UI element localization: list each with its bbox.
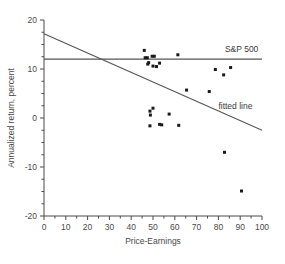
data-point: [152, 107, 155, 110]
data-point: [240, 190, 243, 193]
data-point: [208, 90, 211, 93]
data-point: [148, 110, 151, 113]
scatter-chart: 0102030405060708090100-20-1001020 S&P 50…: [0, 0, 285, 264]
data-point: [214, 68, 217, 71]
data-point: [155, 65, 158, 68]
y-tick-label: 10: [28, 64, 38, 74]
data-point: [223, 151, 226, 154]
data-point: [177, 124, 180, 127]
x-tick-label: 100: [255, 222, 269, 232]
x-tick-label: 70: [192, 222, 202, 232]
data-point: [146, 56, 149, 59]
x-tick-label: 80: [214, 222, 224, 232]
data-point: [158, 62, 161, 65]
data-point: [229, 66, 232, 69]
data-point: [168, 113, 171, 116]
chart-annotation: S&P 500: [225, 44, 259, 54]
data-point: [160, 123, 163, 126]
y-tick-label: 0: [32, 113, 37, 123]
x-tick-label: 90: [235, 222, 245, 232]
data-point: [185, 89, 188, 92]
chart-container: 0102030405060708090100-20-1001020 S&P 50…: [0, 0, 285, 264]
data-point: [143, 49, 146, 52]
chart-annotation: fitted line: [218, 101, 252, 111]
x-tick-label: 40: [126, 222, 136, 232]
annotations-layer: S&P 500fitted line: [218, 44, 258, 110]
x-tick-label: 50: [148, 222, 158, 232]
x-tick-label: 30: [105, 222, 115, 232]
data-point: [222, 73, 225, 76]
data-point: [152, 65, 155, 68]
x-tick-label: 60: [170, 222, 180, 232]
data-point: [176, 53, 179, 56]
y-tick-label: -10: [25, 162, 38, 172]
y-tick-label: 20: [28, 15, 38, 25]
data-point: [147, 61, 150, 64]
x-axis-label: Price-Earnings: [125, 236, 181, 246]
x-tick-label: 0: [42, 222, 47, 232]
data-points-layer: [143, 49, 243, 193]
x-tick-label: 10: [61, 222, 71, 232]
x-tick-label: 20: [83, 222, 93, 232]
data-point: [153, 55, 156, 58]
y-axis-label: Annualized return, percent: [6, 68, 16, 168]
y-tick-label: -20: [25, 211, 38, 221]
data-point: [149, 114, 152, 117]
data-point: [148, 124, 151, 127]
